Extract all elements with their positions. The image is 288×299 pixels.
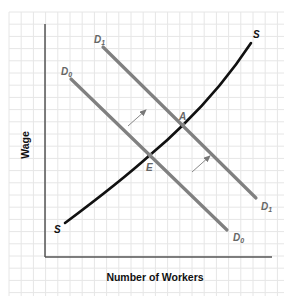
d1-label-bottom: D1: [261, 201, 272, 213]
s-label-top: S: [253, 29, 260, 40]
d1-label-top: D1: [94, 34, 105, 46]
x-axis-title: Number of Workers: [106, 271, 203, 283]
point-e-marker: [148, 153, 152, 157]
d0-label-top: D0: [61, 66, 72, 78]
point-e-label: E: [146, 162, 153, 173]
supply-curve-s: [65, 43, 251, 223]
point-a-marker: [181, 123, 185, 127]
y-axis-title: Wage: [19, 131, 31, 159]
s-label-bottom: S: [54, 224, 61, 235]
point-a-label: A: [178, 111, 186, 122]
d0-label-bottom: D0: [233, 232, 244, 244]
labor-market-chart: E A D1 D0 D1 D0 S S Wage Number of Worke…: [0, 0, 288, 299]
